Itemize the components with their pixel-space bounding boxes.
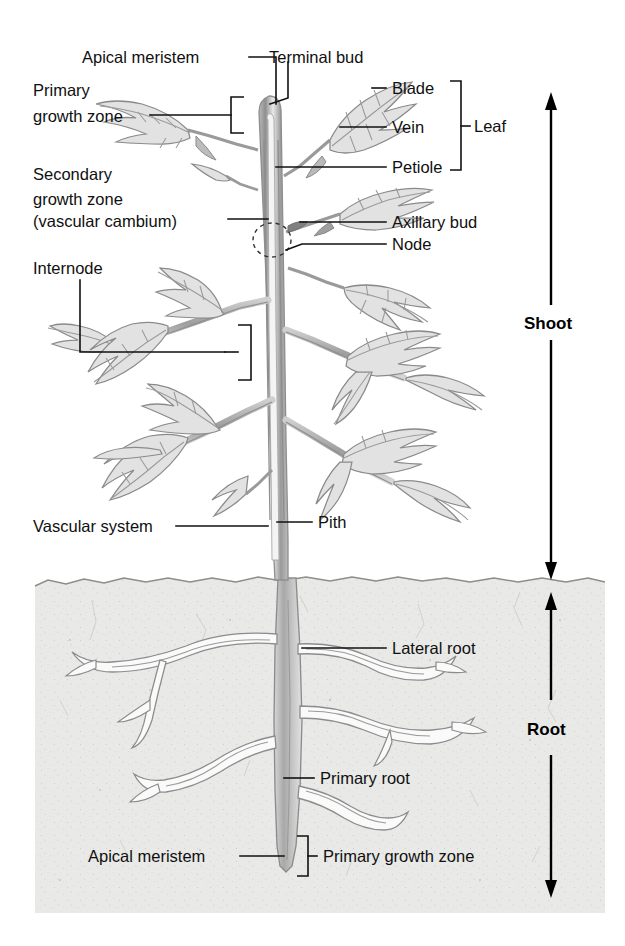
label-root: Root <box>527 720 566 739</box>
label-primary-growth-zone-root: Primary growth zone <box>323 847 474 865</box>
label-primary-growth-zone-line2: growth zone <box>33 107 123 125</box>
label-secondary-growth-zone-line3: (vascular cambium) <box>33 212 177 230</box>
label-secondary-growth-zone-line2: growth zone <box>33 190 123 208</box>
label-secondary-growth-zone-line1: Secondary <box>33 165 113 183</box>
plant-anatomy-diagram: Apical meristem Terminal bud Primary gro… <box>0 0 625 946</box>
label-lateral-root: Lateral root <box>392 639 476 657</box>
label-vascular-system: Vascular system <box>33 517 153 535</box>
label-primary-growth-zone-line1: Primary <box>33 81 91 99</box>
leaf-second-right <box>288 268 430 330</box>
label-petiole: Petiole <box>392 158 442 176</box>
label-node: Node <box>392 235 431 253</box>
label-primary-root: Primary root <box>320 769 410 787</box>
branch-right-lower <box>286 420 470 522</box>
label-shoot: Shoot <box>524 314 572 333</box>
label-apical-meristem-bottom: Apical meristem <box>88 847 205 865</box>
label-leaf: Leaf <box>474 117 507 135</box>
label-axillary-bud: Axillary bud <box>392 213 477 231</box>
label-blade: Blade <box>392 79 434 97</box>
label-pith: Pith <box>318 513 346 531</box>
label-apical-meristem-top: Apical meristem <box>82 48 199 66</box>
label-terminal-bud: Terminal bud <box>269 48 363 66</box>
branch-left-upper <box>48 268 268 384</box>
main-stem <box>259 96 288 580</box>
diagram-canvas: Apical meristem Terminal bud Primary gro… <box>0 0 625 946</box>
label-internode: Internode <box>33 259 103 277</box>
branch-right-mid <box>286 330 484 424</box>
label-vein: Vein <box>392 118 424 136</box>
